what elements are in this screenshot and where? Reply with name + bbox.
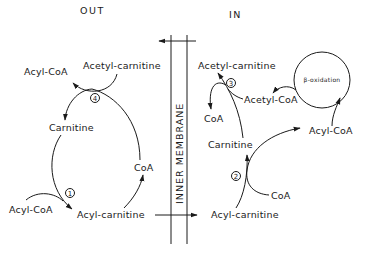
in-acyl-coa: Acyl-CoA — [309, 125, 353, 136]
out-acetyl-carnitine: Acetyl-carnitine — [83, 60, 161, 71]
carnitine-to-acyl-carnitine-arrow — [52, 135, 72, 209]
svg-text:3: 3 — [229, 80, 233, 88]
acyl-coa-to-beta-oxidation-arrow — [332, 98, 340, 126]
reaction-4-arc — [73, 74, 117, 91]
in-coa-bottom: CoA — [271, 190, 291, 201]
reaction-4-to-carnitine-arrow — [65, 89, 92, 120]
acyl-carnitine-to-carnitine-arrow — [236, 155, 247, 208]
in-carnitine: Carnitine — [208, 139, 253, 150]
beta-oxidation-label: β-oxidation — [304, 76, 341, 84]
in-acetyl-carnitine: Acetyl-carnitine — [198, 60, 276, 71]
membrane-label: INNER MEMBRANE — [174, 103, 185, 204]
out-acyl-coa-bottom: Acyl-CoA — [9, 204, 53, 215]
beta-oxidation-cycle: β-oxidation — [294, 52, 350, 108]
out-header: OUT — [80, 5, 105, 16]
step-4-marker: 4 — [91, 94, 100, 103]
in-acetyl-coa: Acetyl-CoA — [244, 94, 298, 105]
reaction-3-to-coa-arrow — [210, 83, 226, 109]
out-acyl-carnitine: Acyl-carnitine — [77, 209, 145, 220]
step-2-marker: 2 — [232, 172, 241, 181]
carnitine-shuttle-diagram: OUT IN INNER MEMBRANE Acyl-CoA Acetyl-ca… — [0, 0, 367, 255]
svg-text:1: 1 — [68, 190, 72, 198]
in-header: IN — [229, 9, 242, 20]
beta-oxidation-to-acetyl-coa-arrow — [273, 87, 296, 93]
out-acyl-coa-top: Acyl-CoA — [24, 66, 68, 77]
in-acyl-carnitine: Acyl-carnitine — [211, 209, 279, 220]
in-coa-top: CoA — [204, 113, 224, 124]
out-carnitine: Carnitine — [49, 122, 94, 133]
acyl-coa-input-arc — [26, 194, 63, 201]
step-1-marker: 1 — [66, 189, 75, 198]
svg-text:2: 2 — [234, 173, 238, 181]
step-3-marker: 3 — [227, 79, 236, 88]
inner-membrane: INNER MEMBRANE — [171, 35, 187, 244]
acyl-carnitine-to-coa-arrow — [124, 175, 143, 208]
svg-text:4: 4 — [93, 95, 98, 103]
out-coa: CoA — [134, 162, 154, 173]
coa-to-acyl-coa-arc — [247, 128, 300, 195]
